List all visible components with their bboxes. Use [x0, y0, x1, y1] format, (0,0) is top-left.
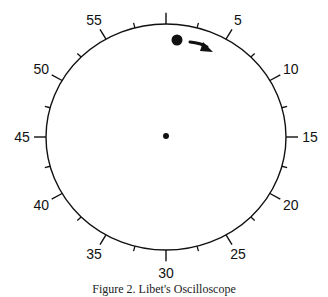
major-tick: [52, 75, 62, 81]
tick-label: 5: [234, 12, 242, 28]
minor-tick: [251, 217, 255, 221]
minor-tick: [77, 54, 81, 58]
figure-caption: Figure 2. Libet's Oscilloscope: [0, 282, 328, 297]
tick-label: 25: [230, 246, 246, 262]
tick-label: 30: [158, 265, 174, 281]
clockwise-arrow-icon: [190, 42, 213, 52]
minor-tick: [134, 23, 135, 28]
tick-label: 55: [86, 12, 102, 28]
tick-label: 20: [283, 197, 299, 213]
moving-spot: [172, 35, 183, 46]
minor-tick: [282, 166, 287, 167]
minor-tick: [197, 23, 198, 28]
major-tick: [226, 29, 232, 39]
tick-label: 40: [34, 197, 50, 213]
major-tick: [226, 235, 232, 245]
minor-tick: [251, 54, 255, 58]
tick-label: 50: [34, 61, 50, 77]
tick-label: 15: [302, 129, 318, 145]
major-tick: [100, 235, 106, 245]
major-tick: [270, 194, 280, 200]
minor-tick: [197, 246, 198, 251]
minor-tick: [45, 166, 50, 167]
tick-label: 45: [14, 129, 30, 145]
tick-labels: 510152025303540455055: [14, 12, 318, 281]
center-dot: [163, 133, 169, 139]
tick-label: 35: [86, 246, 102, 262]
major-tick: [52, 194, 62, 200]
minor-tick: [45, 106, 50, 107]
minor-tick: [134, 246, 135, 251]
major-tick: [270, 75, 280, 81]
major-tick: [100, 29, 106, 39]
minor-tick: [77, 217, 81, 221]
minor-tick: [282, 106, 287, 107]
tick-label: 10: [283, 61, 299, 77]
